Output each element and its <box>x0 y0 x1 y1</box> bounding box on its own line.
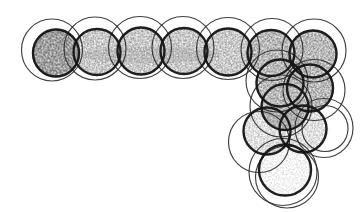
shade-patch <box>35 51 73 69</box>
overlapping-circles-diagram <box>0 0 361 212</box>
circle-chain-figure <box>0 0 361 212</box>
